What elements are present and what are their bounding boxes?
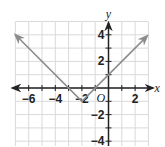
y-tick-label: −2 — [91, 108, 105, 122]
y-tick-label: 4 — [98, 28, 105, 42]
coordinate-plane: −6−4−2242−2−4 x y O — [0, 0, 165, 146]
origin-label: O — [97, 91, 106, 105]
x-tick-label: −2 — [75, 92, 89, 106]
y-tick-label: −4 — [91, 134, 105, 146]
x-tick-label: 2 — [132, 92, 139, 106]
y-tick-label: 2 — [98, 54, 105, 68]
y-axis-label: y — [105, 7, 112, 21]
x-tick-label: −6 — [22, 92, 36, 106]
x-tick-label: −4 — [48, 92, 62, 106]
grid-lines — [15, 22, 148, 147]
x-axis-label: x — [153, 81, 160, 95]
